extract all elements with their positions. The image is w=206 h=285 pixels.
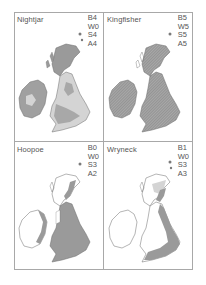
season-codes: B1 W0 S3 A3 bbox=[178, 144, 189, 178]
map-panel-kingfisher: Kingfisher B5 W5 S5 A5 bbox=[104, 12, 193, 141]
code-autumn: A3 bbox=[178, 170, 189, 179]
panel-title: Wryneck bbox=[107, 145, 137, 154]
panel-title: Kingfisher bbox=[107, 15, 141, 24]
season-codes: B4 W0 S4 A4 bbox=[88, 14, 99, 48]
map-panel-wryneck: Wryneck B1 W0 S3 A3 bbox=[104, 142, 193, 271]
map-panel-nightjar: Nightjar B4 W0 S4 A4 bbox=[14, 12, 103, 141]
map-panel-hoopoe: Hoopoe B0 W0 S3 A2 bbox=[14, 142, 103, 271]
panel-title: Hoopoe bbox=[17, 145, 44, 154]
code-autumn: A4 bbox=[88, 40, 99, 49]
code-autumn: A2 bbox=[88, 170, 99, 179]
panel-title: Nightjar bbox=[17, 15, 44, 24]
season-codes: B5 W5 S5 A5 bbox=[178, 14, 189, 48]
season-codes: B0 W0 S3 A2 bbox=[88, 144, 99, 178]
code-autumn: A5 bbox=[178, 40, 189, 49]
